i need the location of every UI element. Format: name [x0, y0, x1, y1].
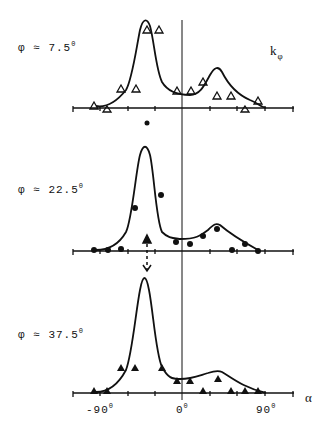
degree-symbol: 0 [79, 327, 84, 335]
panel-3-curve [96, 278, 266, 393]
panel-2-label: φ ≈ 22.50 [18, 182, 84, 196]
panel-1-label: φ ≈ 7.50 [18, 40, 76, 54]
panel-3-points [90, 364, 262, 394]
tick-label-0: 00 [176, 402, 189, 416]
panel-3-label: φ ≈ 37.50 [18, 327, 84, 341]
tick-label-minus-90: -900 [86, 402, 114, 416]
degree-symbol: 0 [184, 402, 189, 410]
k-subscript: φ [278, 51, 284, 61]
degree-symbol: 0 [71, 40, 76, 48]
y-axis-label: kφ [270, 43, 284, 61]
panel-2-curve [96, 147, 258, 250]
panel-1-label-text: φ ≈ 7.5 [18, 42, 71, 54]
dashed-arrow [143, 235, 151, 271]
tick-text: -90 [86, 404, 109, 416]
panel-2-label-text: φ ≈ 22.5 [18, 184, 79, 196]
k-symbol: k [270, 43, 278, 58]
panel-3-label-text: φ ≈ 37.5 [18, 329, 79, 341]
tick-text: 90 [256, 404, 271, 416]
degree-symbol: 0 [109, 402, 114, 410]
tick-text: 0 [176, 404, 184, 416]
panel-1-curve [96, 20, 266, 108]
tick-label-90: 900 [256, 402, 276, 416]
degree-symbol: 0 [79, 182, 84, 190]
stray-dot-marker [145, 121, 150, 126]
panel-2-points [91, 192, 261, 254]
x-axis-label: α [305, 390, 313, 406]
degree-symbol: 0 [271, 402, 276, 410]
chart-canvas [0, 0, 326, 435]
